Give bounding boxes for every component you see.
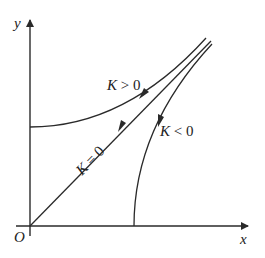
arrow-k-zero-icon (118, 120, 126, 132)
label-k-zero: K = 0 (72, 143, 107, 179)
phase-diagram: y x O K > 0 K < 0 K = 0 (0, 0, 265, 258)
diagram-svg: y x O K > 0 K < 0 K = 0 (0, 0, 265, 258)
label-k-negative: K < 0 (159, 123, 193, 139)
x-axis-label: x (239, 231, 247, 247)
origin-label: O (14, 229, 25, 245)
y-axis-label: y (12, 15, 21, 31)
label-k-positive: K > 0 (106, 77, 140, 93)
